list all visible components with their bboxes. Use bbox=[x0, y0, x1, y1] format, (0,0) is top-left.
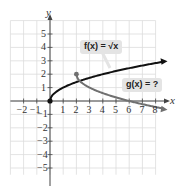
y-tick-label: −3 bbox=[37, 136, 48, 146]
y-axis-label: y bbox=[46, 7, 51, 18]
y-tick-label: −5 bbox=[37, 163, 48, 173]
y-tick-label: 5 bbox=[41, 29, 46, 39]
y-tick-label: 2 bbox=[41, 69, 46, 79]
y-tick-label: −2 bbox=[37, 123, 48, 133]
x-tick-label: 4 bbox=[100, 105, 105, 115]
g-start-point bbox=[74, 72, 79, 77]
f-arrow-icon bbox=[161, 58, 168, 64]
y-tick-label: −4 bbox=[37, 150, 48, 160]
coordinate-plane bbox=[0, 0, 180, 188]
x-tick-label: 8 bbox=[153, 105, 158, 115]
x-axis-label: x bbox=[170, 95, 175, 106]
x-tick-label: 7 bbox=[139, 105, 144, 115]
x-tick-label: 1 bbox=[60, 105, 65, 115]
y-tick-label: 3 bbox=[41, 56, 46, 66]
f-start-point bbox=[47, 98, 52, 103]
y-tick-label: −1 bbox=[37, 109, 48, 119]
g-function-label: g(x) = ? bbox=[126, 79, 158, 89]
x-tick-label: 5 bbox=[113, 105, 118, 115]
f-function-callout: f(x) = √x bbox=[80, 40, 122, 54]
y-tick-label: 4 bbox=[41, 42, 46, 52]
x-tick-label: −2 bbox=[17, 105, 28, 115]
g-arrow-icon bbox=[161, 106, 168, 113]
g-function-callout: g(x) = ? bbox=[122, 78, 162, 92]
f-function-label: f(x) = √x bbox=[84, 41, 118, 51]
y-tick-label: 1 bbox=[41, 83, 46, 93]
x-tick-label: 2 bbox=[73, 105, 78, 115]
x-tick-label: 6 bbox=[126, 105, 131, 115]
x-tick-label: 3 bbox=[87, 105, 92, 115]
